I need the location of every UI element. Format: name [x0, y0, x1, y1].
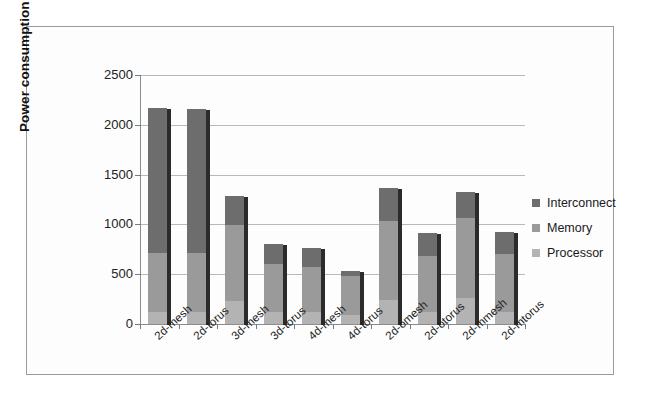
- bar-slot[interactable]: [179, 75, 218, 324]
- bar-slot[interactable]: [410, 75, 449, 324]
- legend-label: Memory: [547, 221, 592, 235]
- bar-segment-interconnect[interactable]: [225, 196, 244, 226]
- chart-legend: InterconnectMemoryProcessor: [532, 190, 637, 265]
- stacked-bar[interactable]: [379, 188, 398, 324]
- bar-shadow: [398, 189, 402, 325]
- bar-segment-interconnect[interactable]: [379, 188, 398, 222]
- legend-item[interactable]: Memory: [532, 215, 637, 240]
- bar-slot[interactable]: [140, 75, 179, 324]
- y-axis-tick-label: 2500: [75, 67, 133, 82]
- stacked-bar[interactable]: [225, 196, 244, 324]
- bar-slot[interactable]: [371, 75, 410, 324]
- bar-segment-interconnect[interactable]: [456, 192, 475, 219]
- stacked-bar[interactable]: [341, 271, 360, 324]
- bar-shadow: [244, 197, 248, 325]
- y-axis-title: Power consumption (W): [17, 0, 32, 132]
- bar-slot[interactable]: [487, 75, 526, 324]
- legend-swatch-icon: [532, 199, 540, 207]
- y-axis-tick-label: 0: [75, 316, 133, 331]
- plot-area: [140, 75, 525, 324]
- bar-segment-interconnect[interactable]: [264, 244, 283, 264]
- bar-segment-memory[interactable]: [264, 264, 283, 312]
- y-axis-tick-label: 1500: [75, 167, 133, 182]
- bar-shadow: [475, 193, 479, 325]
- bar-segment-interconnect[interactable]: [418, 233, 437, 256]
- bar-segment-memory[interactable]: [187, 253, 206, 312]
- bar-segment-memory[interactable]: [225, 225, 244, 301]
- bar-segment-interconnect[interactable]: [341, 271, 360, 276]
- chart-page: Power consumption (W) 250020001500100050…: [0, 0, 649, 407]
- bar-slot[interactable]: [217, 75, 256, 324]
- bar-shadow: [437, 234, 441, 325]
- bar-shadow: [206, 110, 210, 325]
- bar-slot[interactable]: [333, 75, 372, 324]
- bar-shadow: [514, 233, 518, 325]
- bar-slot[interactable]: [448, 75, 487, 324]
- bar-slot[interactable]: [256, 75, 295, 324]
- bar-shadow: [167, 109, 171, 325]
- y-axis-tick-labels: 25002000150010005000: [75, 75, 133, 324]
- y-axis-tick-label: 2000: [75, 117, 133, 132]
- legend-swatch-icon: [532, 224, 540, 232]
- x-axis-end-tick-slot: [525, 75, 526, 324]
- legend-item[interactable]: Interconnect: [532, 190, 637, 215]
- y-axis-tick-label: 500: [75, 266, 133, 281]
- legend-label: Processor: [547, 246, 603, 260]
- bar-segment-interconnect[interactable]: [148, 108, 167, 253]
- bar-group: [140, 75, 525, 324]
- legend-item[interactable]: Processor: [532, 240, 637, 265]
- stacked-bar[interactable]: [187, 109, 206, 324]
- y-axis-tick-label: 1000: [75, 216, 133, 231]
- bar-segment-memory[interactable]: [456, 218, 475, 298]
- bar-segment-interconnect[interactable]: [187, 109, 206, 253]
- x-axis-tick-labels: 2d-mesh2d-torus3d-mesh3d-torus4d-mesh4d-…: [140, 327, 525, 397]
- legend-label: Interconnect: [547, 196, 616, 210]
- bar-segment-memory[interactable]: [148, 253, 167, 312]
- bar-segment-interconnect[interactable]: [495, 232, 514, 254]
- figure-frame: Power consumption (W) 250020001500100050…: [26, 26, 614, 375]
- bar-segment-memory[interactable]: [379, 221, 398, 300]
- stacked-bar[interactable]: [148, 108, 167, 324]
- bar-segment-interconnect[interactable]: [302, 248, 321, 267]
- legend-swatch-icon: [532, 249, 540, 257]
- bar-segment-memory[interactable]: [302, 267, 321, 312]
- bar-shadow: [321, 249, 325, 325]
- bar-shadow: [283, 245, 287, 325]
- bar-slot[interactable]: [294, 75, 333, 324]
